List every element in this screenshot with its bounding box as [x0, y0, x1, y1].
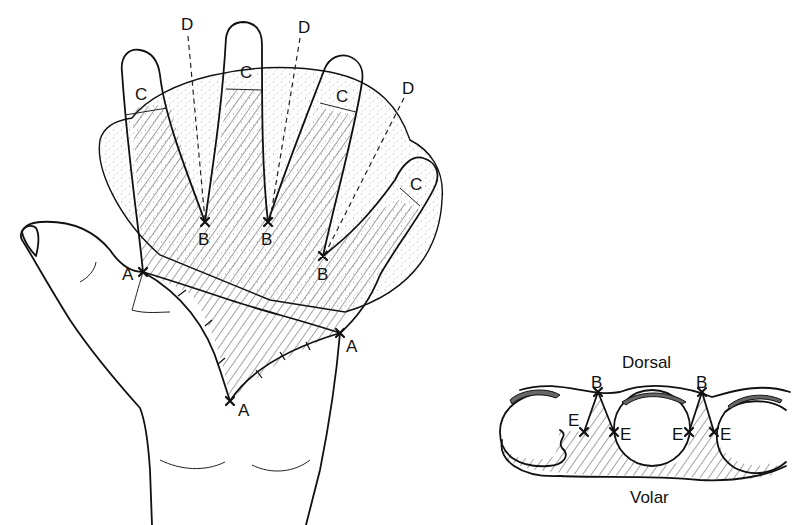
label-a-2: A — [346, 337, 358, 356]
figure-canvas: A A A B B B C C C C D D D Dorsal Volar — [0, 0, 797, 525]
nail-middle — [622, 393, 686, 405]
label-b-1: B — [198, 230, 209, 249]
label-volar: Volar — [630, 488, 669, 507]
label-d-2: D — [298, 18, 310, 37]
ulnar-edge — [306, 333, 340, 525]
wrist-crease-left — [160, 460, 225, 469]
label-e-1: E — [568, 411, 579, 430]
label-c-4: C — [410, 175, 422, 194]
label-a-3: A — [238, 401, 250, 420]
thumb-crease — [80, 262, 96, 282]
label-d-1: D — [181, 15, 193, 34]
label-e-3: E — [672, 425, 683, 444]
label-dorsal: Dorsal — [622, 353, 671, 372]
thumbnail-outline — [22, 226, 38, 256]
label-b-2: B — [261, 230, 272, 249]
label-b-section-1: B — [591, 373, 602, 392]
label-c-3: C — [336, 87, 348, 106]
syndactyly-diagram: A A A B B B C C C C D D D Dorsal Volar — [0, 0, 797, 525]
label-b-3: B — [317, 265, 328, 284]
label-c-2: C — [240, 63, 252, 82]
wrist-crease-right — [252, 460, 310, 471]
label-d-3: D — [402, 79, 414, 98]
cross-section-illustration: Dorsal Volar B B E E E — [500, 353, 790, 507]
label-a-1: A — [122, 265, 134, 284]
label-e-4: E — [720, 425, 731, 444]
label-b-section-2: B — [696, 373, 707, 392]
hand-illustration: A A A B B B C C C C D D D — [21, 15, 442, 525]
label-e-2: E — [620, 425, 631, 444]
label-c-1: C — [135, 85, 147, 104]
